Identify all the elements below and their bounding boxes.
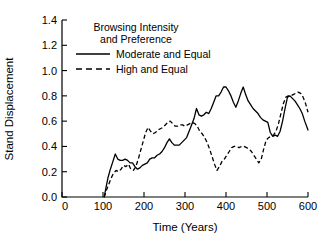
- legend-title-line-1: Browsing Intensity: [93, 21, 179, 33]
- x-axis-ticks: [62, 192, 308, 197]
- y-axis-ticks: [62, 20, 67, 197]
- x-tick-label: 200: [135, 200, 153, 212]
- y-tick-label: 0.8: [42, 90, 57, 102]
- y-tick-label: 0.6: [42, 115, 57, 127]
- y-tick-label: 1.0: [42, 65, 57, 77]
- y-tick-label: 1.2: [42, 39, 57, 51]
- y-axis-title: Stand Displacement: [3, 57, 15, 161]
- legend-label-moderate-and-equal: Moderate and Equal: [116, 48, 211, 60]
- y-tick-label: 0.4: [42, 140, 57, 152]
- x-tick-label: 100: [94, 200, 112, 212]
- x-tick-label: 300: [176, 200, 194, 212]
- axis-frame: [62, 20, 308, 197]
- x-tick-label: 400: [217, 200, 235, 212]
- y-tick-label: 1.4: [42, 14, 57, 26]
- x-tick-label: 0: [62, 200, 68, 212]
- chart-figure: 0100200300400500600 0.00.20.40.60.81.01.…: [0, 0, 325, 240]
- y-tick-label: 0.2: [42, 166, 57, 178]
- chart-legend: Browsing Intensity and Preference Modera…: [76, 21, 211, 75]
- legend-title-line-2: and Preference: [100, 33, 172, 45]
- x-axis-title: Time (Years): [153, 221, 218, 233]
- series-line-high-and-equal: [104, 92, 308, 197]
- line-chart: 0100200300400500600 0.00.20.40.60.81.01.…: [0, 0, 325, 240]
- x-tick-label: 600: [299, 200, 317, 212]
- y-axis-tick-labels: 0.00.20.40.60.81.01.21.4: [42, 14, 57, 203]
- legend-label-high-and-equal: High and Equal: [116, 63, 188, 75]
- x-tick-label: 500: [258, 200, 276, 212]
- y-tick-label: 0.0: [42, 191, 57, 203]
- chart-axes: [62, 20, 308, 197]
- chart-series: [104, 87, 308, 197]
- x-axis-tick-labels: 0100200300400500600: [62, 200, 317, 212]
